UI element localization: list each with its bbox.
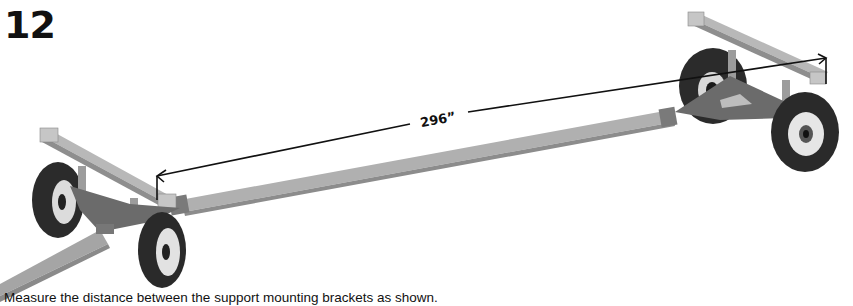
dimension-label: 296”: [419, 109, 457, 131]
step-number: 12: [4, 6, 55, 44]
wagon-running-gear-illustration: 296”: [0, 0, 853, 306]
instruction-caption: Measure the distance between the support…: [4, 290, 438, 306]
rear-axle-assembly: [675, 12, 839, 172]
